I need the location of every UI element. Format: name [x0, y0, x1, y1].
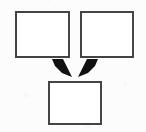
node-source-right[interactable]	[80, 11, 134, 58]
node-source-left-label	[17, 13, 68, 56]
node-target-bottom-label	[50, 83, 100, 123]
arrow-down-left-icon	[78, 59, 98, 77]
diagram-canvas	[0, 0, 146, 132]
node-source-left[interactable]	[15, 11, 70, 58]
node-target-bottom[interactable]	[48, 81, 102, 125]
node-source-right-label	[82, 13, 132, 56]
arrow-down-right-icon	[52, 59, 72, 77]
